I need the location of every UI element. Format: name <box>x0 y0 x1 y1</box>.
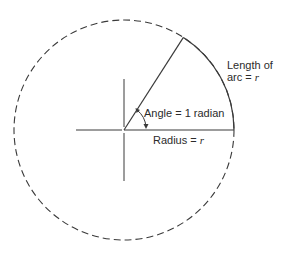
radius-label: Radius = r <box>153 134 204 146</box>
arc-label-line2: arc = r <box>227 71 273 83</box>
arc-label-line1: Length of <box>227 59 273 71</box>
radius-var: r <box>200 134 204 146</box>
arc-length-label: Length of arc = r <box>227 59 273 83</box>
angle-arrowhead-bottom-icon <box>144 124 149 129</box>
angle-label: Angle = 1 radian <box>144 107 224 119</box>
radian-diagram <box>0 0 283 255</box>
arc-var: r <box>255 71 259 83</box>
